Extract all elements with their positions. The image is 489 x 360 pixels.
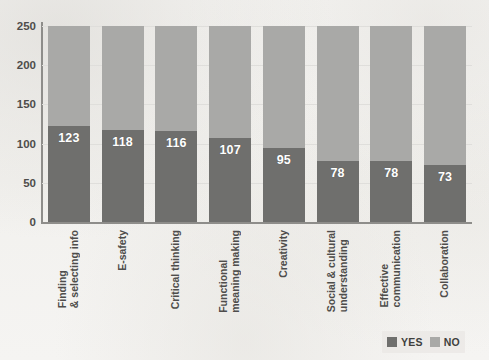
bar-segment-no[interactable] — [155, 26, 197, 131]
category-label: Functional meaning making — [218, 230, 241, 313]
bar-group[interactable]: 116 — [155, 26, 197, 222]
category-label: E-safety — [117, 230, 129, 271]
y-tick-label: 100 — [2, 138, 36, 150]
bar-value-label: 78 — [317, 166, 359, 180]
bar-segment-no[interactable] — [48, 26, 90, 126]
bar-group[interactable]: 107 — [209, 26, 251, 222]
y-tick-label: 50 — [2, 177, 36, 189]
category-label: Critical thinking — [170, 230, 182, 309]
category-label: Finding & selecting info — [57, 230, 80, 308]
y-tick-label: 200 — [2, 59, 36, 71]
chart-legend: YESNO — [382, 331, 465, 353]
legend-label: YES — [401, 336, 423, 348]
bar-group[interactable]: 123 — [48, 26, 90, 222]
legend-item[interactable]: YES — [387, 336, 423, 348]
bar-value-label: 123 — [48, 131, 90, 145]
legend-label: NO — [444, 336, 460, 348]
bar-group[interactable]: 78 — [370, 26, 412, 222]
bar-group[interactable]: 78 — [317, 26, 359, 222]
bar-value-label: 78 — [370, 166, 412, 180]
category-label: Creativity — [278, 230, 290, 278]
y-tick-label: 150 — [2, 98, 36, 110]
bar-value-label: 107 — [209, 143, 251, 157]
bar-segment-no[interactable] — [317, 26, 359, 161]
stacked-bar-chart: 250200150100500 12311811610795787873 Fin… — [0, 0, 489, 360]
bar-value-label: 116 — [155, 136, 197, 150]
x-axis-line — [41, 222, 472, 224]
legend-swatch-icon — [430, 337, 440, 347]
plot-area: 12311811610795787873 — [42, 26, 472, 222]
category-label: Effective communication — [379, 230, 402, 308]
bar-segment-no[interactable] — [370, 26, 412, 161]
y-tick-label: 250 — [2, 20, 36, 32]
category-label: Collaboration — [439, 230, 451, 298]
legend-swatch-icon — [387, 337, 397, 347]
bar-segment-no[interactable] — [102, 26, 144, 129]
bar-group[interactable]: 95 — [263, 26, 305, 222]
bar-group[interactable]: 118 — [102, 26, 144, 222]
bar-segment-no[interactable] — [263, 26, 305, 148]
legend-item[interactable]: NO — [430, 336, 460, 348]
bar-segment-no[interactable] — [424, 26, 466, 165]
bar-group[interactable]: 73 — [424, 26, 466, 222]
bar-value-label: 118 — [102, 135, 144, 149]
bar-value-label: 73 — [424, 170, 466, 184]
bar-segment-no[interactable] — [209, 26, 251, 138]
category-label: Social & cultural understanding — [326, 230, 349, 312]
bar-value-label: 95 — [263, 153, 305, 167]
y-tick-label: 0 — [2, 216, 36, 228]
